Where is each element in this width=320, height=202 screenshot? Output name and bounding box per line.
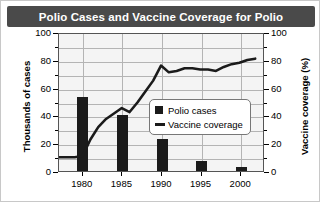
y-tick-label-left: 60 [23,83,51,94]
x-tick [161,172,162,176]
y-tick-minor-right [264,103,267,104]
x-tick-label: 1990 [141,178,181,189]
y-tick-label-right: 80 [271,55,299,66]
x-tick-label: 2000 [220,178,260,189]
y-tick-right [264,33,269,34]
legend-label-vaccine-coverage: Vaccine coverage [168,119,243,130]
x-tick [121,172,122,176]
legend-item-vaccine-coverage: Vaccine coverage [155,117,243,131]
y-tick-left [53,172,58,173]
legend-label-polio-cases: Polio cases [168,105,217,116]
x-tick-label: 1985 [101,178,141,189]
y-tick-label-left: 40 [23,110,51,121]
x-tick [201,172,202,176]
y-tick-label-right: 40 [271,110,299,121]
y-tick-right [264,144,269,145]
y-axis-right-title: Vaccine coverage (%) [299,37,310,177]
y-tick-label-left: 0 [23,166,51,177]
y-tick-minor-right [264,75,267,76]
y-tick-label-left: 100 [23,27,51,38]
y-tick-right [264,172,269,173]
y-tick-right [264,61,269,62]
x-tick-label: 1995 [181,178,221,189]
y-tick-label-right: 100 [271,27,299,38]
y-tick-label-left: 80 [23,55,51,66]
y-tick-minor-right [264,47,267,48]
y-tick-label-right: 60 [271,83,299,94]
page-title: Polio Cases and Vaccine Coverage for Pol… [39,11,284,23]
x-tick [240,172,241,176]
y-tick-minor-right [264,158,267,159]
chart-figure: Polio Cases and Vaccine Coverage for Pol… [0,0,320,202]
chart-legend: Polio cases Vaccine coverage [149,99,251,135]
x-tick-label: 1980 [62,178,102,189]
y-tick-label-right: 0 [271,166,299,177]
y-tick-right [264,116,269,117]
y-tick-right [264,89,269,90]
legend-item-polio-cases: Polio cases [155,103,243,117]
y-tick-label-right: 20 [271,138,299,149]
chart-title-bar: Polio Cases and Vaccine Coverage for Pol… [7,6,315,27]
y-tick-minor-right [264,130,267,131]
y-tick-label-left: 20 [23,138,51,149]
line-swatch-icon [155,123,165,126]
x-tick [82,172,83,176]
bar-swatch-icon [155,106,163,114]
